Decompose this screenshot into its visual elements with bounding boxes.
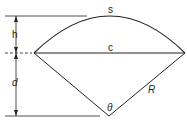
- label-R: R: [148, 84, 155, 95]
- arrow-h-top-icon: [14, 16, 18, 22]
- label-s: s: [108, 4, 113, 15]
- label-theta: θ: [107, 102, 113, 113]
- radius-R: [109, 53, 185, 116]
- arrow-h-bottom-icon: [14, 47, 18, 53]
- label-d: d: [12, 77, 18, 88]
- arrow-d-top-icon: [14, 53, 18, 59]
- segment-diagram: s c h d R θ: [0, 0, 187, 122]
- label-c: c: [108, 42, 113, 53]
- radius-left: [34, 53, 109, 116]
- arrow-d-bottom-icon: [14, 110, 18, 116]
- label-h: h: [12, 29, 18, 40]
